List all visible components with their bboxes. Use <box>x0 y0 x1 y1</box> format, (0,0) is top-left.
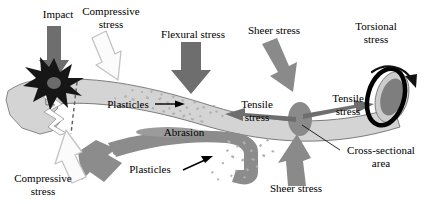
label-tensile-stress-left: Tensile stress <box>233 98 281 123</box>
sheer-stress-bottom-arrow <box>278 134 311 186</box>
label-plasticles-below: Plasticles <box>120 163 180 175</box>
label-compressive-stress-bottom: Compressive stress <box>6 172 80 197</box>
plasticles-below-pointer <box>183 156 213 170</box>
label-abrasion: Abrasion <box>152 126 216 138</box>
flexural-stress-arrow <box>171 42 211 94</box>
label-sheer-stress-bottom: Sheer stress <box>258 182 334 194</box>
sheer-stress-top-arrow <box>262 38 297 92</box>
label-tensile-stress-right: Tensile stress <box>324 92 372 117</box>
compressive-stress-top-arrow <box>92 31 121 80</box>
label-cross-sectional-area: Cross-sectional area <box>340 144 422 169</box>
label-torsional-stress: Torsional stress <box>340 20 412 45</box>
label-flexural-stress: Flexural stress <box>152 28 234 40</box>
label-compressive-stress-top: Compressive stress <box>74 5 148 30</box>
label-sheer-stress-top: Sheer stress <box>236 24 312 36</box>
label-plasticles-inside: Plasticles <box>100 98 156 110</box>
stress-diagram: Impact Compressive stress Flexural stres… <box>0 0 424 204</box>
